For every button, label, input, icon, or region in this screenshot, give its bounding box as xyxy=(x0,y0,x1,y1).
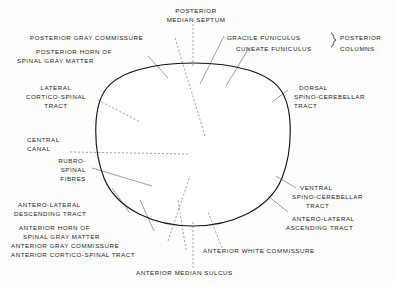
label-dorsal-spino-cerebellar-line1: DORSAL xyxy=(299,84,328,91)
posterior-columns-brace xyxy=(331,33,336,47)
label-central-canal-line2: CANAL xyxy=(27,145,50,152)
label-posterior-columns-line2: COLUMNS xyxy=(340,45,375,52)
label-lateral-cortico-spinal-line3: TRACT xyxy=(44,102,67,109)
label-posterior-median-septum-line1: POSTERIOR xyxy=(175,7,216,14)
label-lateral-cortico-spinal-line2: CORTICO-SPINAL xyxy=(26,93,86,100)
label-ventral-spino-cerebellar-line3: TRACT xyxy=(306,202,329,209)
label-antero-lateral-ascending-line1: ANTERO-LATERAL xyxy=(292,215,355,222)
label-anterior-median-sulcus: ANTERIOR MEDIAN SULCUS xyxy=(136,269,233,276)
label-gracile-funiculus: GRACILE FUNICULUS xyxy=(227,34,301,41)
label-anterior-gray-commissure: ANTERIOR GRAY COMMISSURE xyxy=(11,242,119,249)
label-rubro-spinal-line1: RUBRO- xyxy=(58,157,86,164)
label-ventral-spino-cerebellar-line2: SPINO-CEREBELLAR xyxy=(292,193,363,200)
label-anterior-cortico-spinal: ANTERIOR CORTICO-SPINAL TRACT xyxy=(11,251,135,258)
label-rubro-spinal-line3: FIBRES xyxy=(60,175,86,182)
label-antero-lateral-descending-line1: ANTERO-LATERAL xyxy=(18,201,81,208)
spinal-cord-outline xyxy=(96,63,291,226)
label-central-canal-line1: CENTRAL xyxy=(27,136,60,143)
label-rubro-spinal-line2: SPINAL xyxy=(61,166,86,173)
spinal-cord-figure: POSTERIOR MEDIAN SEPTUM POSTERIOR GRAY C… xyxy=(0,0,395,286)
label-antero-lateral-descending-line2: DESCENDING TRACT xyxy=(14,210,86,217)
leader-antero-lateral-ascending xyxy=(268,196,288,212)
label-cuneate-funiculus: CUNEATE FUNICULUS xyxy=(236,45,312,52)
label-lateral-cortico-spinal-line1: LATERAL xyxy=(41,84,72,91)
label-dorsal-spino-cerebellar-line3: TRACT xyxy=(294,102,317,109)
label-posterior-horn-line1: POSTERIOR HORN OF xyxy=(36,48,112,55)
label-anterior-horn-line1: ANTERIOR HORN OF xyxy=(19,224,90,231)
label-antero-lateral-ascending-line2: ASCENDING TRACT xyxy=(286,224,353,231)
label-anterior-white-commissure: ANTERIOR WHITE COMMISSURE xyxy=(203,247,315,254)
label-ventral-spino-cerebellar-line1: VENTRAL xyxy=(300,184,332,191)
label-posterior-gray-commissure: POSTERIOR GRAY COMMISSURE xyxy=(30,34,143,41)
label-posterior-horn-line2: SPINAL GRAY MATTER xyxy=(17,57,94,64)
label-dorsal-spino-cerebellar-line2: SPINO-CEREBELLAR xyxy=(294,93,365,100)
label-posterior-columns-line1: POSTERIOR xyxy=(340,34,381,41)
label-posterior-median-septum-line2: MEDIAN SEPTUM xyxy=(167,16,226,23)
label-anterior-horn-line2: SPINAL GRAY MATTER xyxy=(23,233,100,240)
